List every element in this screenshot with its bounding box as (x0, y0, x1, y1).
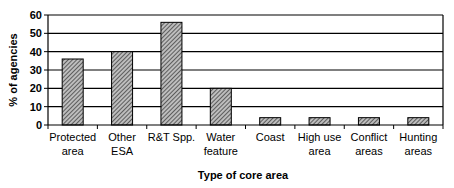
x-category-label: area (62, 145, 85, 157)
chart-canvas: 0102030405060 ProtectedareaOtherESAR&T S… (0, 0, 454, 188)
y-tick-label: 20 (30, 82, 42, 94)
x-category-label: Hunting (399, 131, 437, 143)
bar (210, 88, 231, 125)
x-category-label: Water (206, 131, 235, 143)
bar (309, 118, 330, 125)
bar (112, 52, 133, 125)
x-category-label: Other (108, 131, 136, 143)
x-category-label: R&T Spp. (148, 131, 196, 143)
x-category-label: areas (405, 145, 433, 157)
bar-chart: 0102030405060 ProtectedareaOtherESAR&T S… (0, 0, 454, 188)
y-tick-labels: 0102030405060 (30, 9, 42, 131)
y-tick-label: 0 (36, 119, 42, 131)
bar (358, 118, 379, 125)
x-category-label: High use (298, 131, 341, 143)
y-tick-label: 10 (30, 101, 42, 113)
bar (62, 59, 83, 125)
gridlines (48, 15, 443, 107)
y-tick-label: 30 (30, 64, 42, 76)
x-category-label: ESA (111, 145, 134, 157)
x-category-label: Conflict (351, 131, 388, 143)
bar (260, 118, 281, 125)
bar (161, 22, 182, 125)
x-category-label: Protected (49, 131, 96, 143)
bar (408, 118, 429, 125)
axes (44, 15, 443, 129)
y-tick-label: 50 (30, 27, 42, 39)
bars (62, 22, 429, 125)
x-category-label: area (309, 145, 332, 157)
y-tick-label: 60 (30, 9, 42, 21)
x-axis-title: Type of core area (198, 169, 289, 181)
x-category-labels: ProtectedareaOtherESAR&T Spp.Waterfeatur… (49, 131, 437, 157)
x-category-label: Coast (256, 131, 285, 143)
x-category-label: feature (204, 145, 238, 157)
y-axis-title: % of agencies (7, 33, 19, 106)
y-tick-label: 40 (30, 46, 42, 58)
x-category-label: areas (355, 145, 383, 157)
